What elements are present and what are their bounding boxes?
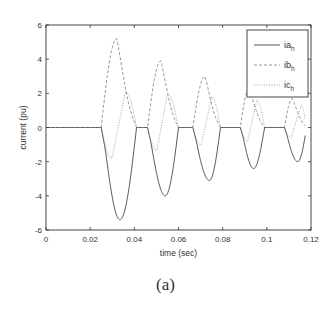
x-tick-label: 0.02 <box>82 235 98 244</box>
y-tick-label: 6 <box>38 21 43 30</box>
y-tick-label: -2 <box>35 158 43 167</box>
x-tick-label: 0.04 <box>127 235 143 244</box>
series-ia-line <box>46 128 305 220</box>
x-tick-label: 0.1 <box>261 235 273 244</box>
chart: 00.020.040.060.080.10.12-6-4-20246 time … <box>0 0 331 317</box>
figure-caption: (a) <box>0 275 331 295</box>
legend-box <box>247 30 308 97</box>
y-tick-label: 4 <box>38 55 43 64</box>
y-axis-label: current (pu) <box>18 105 28 149</box>
y-tick-label: 2 <box>38 89 43 98</box>
x-tick-label: 0.06 <box>171 235 187 244</box>
x-tick-label: 0.08 <box>215 235 231 244</box>
y-tick-label: -4 <box>35 192 43 201</box>
x-tick-label: 0 <box>44 235 49 244</box>
x-tick-label: 0.12 <box>303 235 319 244</box>
y-tick-label: -6 <box>35 226 43 235</box>
legend: iahibhich <box>247 30 308 97</box>
x-axis-label: time (sec) <box>160 248 197 258</box>
y-tick-label: 0 <box>38 124 43 133</box>
